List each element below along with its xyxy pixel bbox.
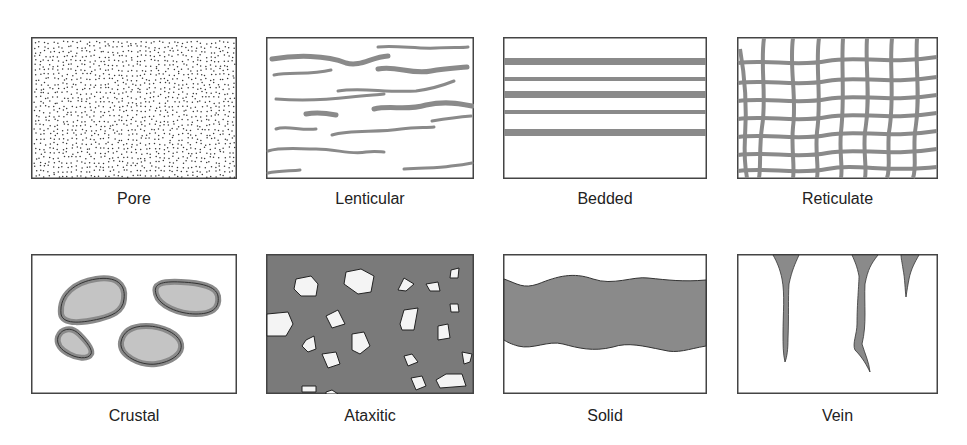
panel-label: Pore: [31, 190, 237, 208]
panel-lenticular: Lenticular: [266, 37, 474, 179]
pore-texture-illustration: [31, 37, 237, 179]
panel-label: Crustal: [31, 407, 237, 425]
bedded-texture-illustration: [503, 37, 707, 179]
panel-label: Solid: [503, 407, 707, 425]
panel-label: Vein: [737, 407, 938, 425]
panel-label: Lenticular: [266, 190, 474, 208]
panel-label: Bedded: [503, 190, 707, 208]
crustal-texture-illustration: [31, 254, 237, 394]
panel-pore: Pore: [31, 37, 237, 179]
panel-ataxitic: Ataxitic: [266, 254, 474, 394]
reticulate-texture-illustration: [737, 37, 938, 179]
panel-crustal: Crustal: [31, 254, 237, 394]
panel-reticulate: Reticulate: [737, 37, 938, 179]
panel-bedded: Bedded: [503, 37, 707, 179]
ataxitic-texture-illustration: [266, 254, 474, 394]
panel-label: Ataxitic: [266, 407, 474, 425]
panel-solid: Solid: [503, 254, 707, 394]
lenticular-texture-illustration: [266, 37, 474, 179]
solid-texture-illustration: [503, 254, 707, 394]
panel-vein: Vein: [737, 254, 938, 394]
panel-label: Reticulate: [737, 190, 938, 208]
vein-texture-illustration: [737, 254, 938, 394]
